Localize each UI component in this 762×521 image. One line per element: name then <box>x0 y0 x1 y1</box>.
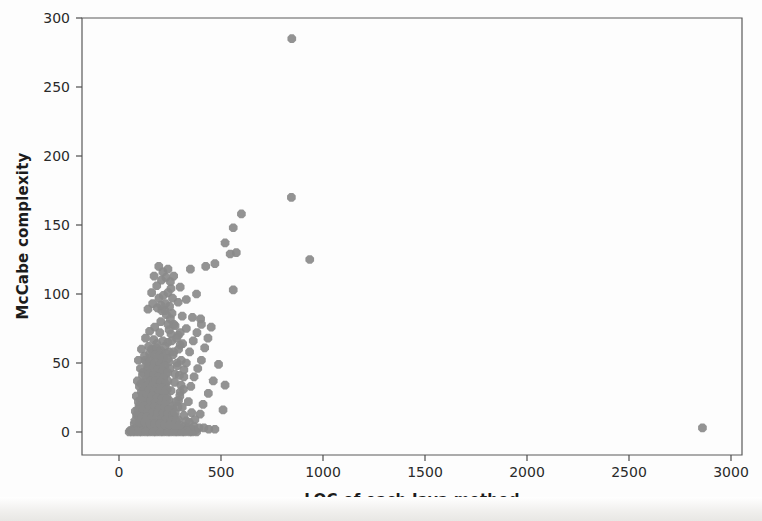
data-point <box>214 360 223 369</box>
y-tick-label: 300 <box>43 10 70 26</box>
data-point-layer <box>125 34 707 436</box>
x-axis-tick-marks <box>119 455 731 461</box>
data-point <box>184 397 193 406</box>
y-axis-title: McCabe complexity <box>14 152 32 319</box>
y-tick-label: 200 <box>43 148 70 164</box>
data-point <box>164 265 173 274</box>
data-point <box>204 389 213 398</box>
y-tick-label: 250 <box>43 79 70 95</box>
data-point <box>219 406 228 415</box>
y-tick-label: 150 <box>43 217 70 233</box>
data-point <box>165 302 174 311</box>
x-axis-tick-labels: 050010001500200025003000 <box>115 464 749 480</box>
data-point <box>155 328 164 337</box>
figure-container: 050010001500200025003000 050100150200250… <box>0 0 762 521</box>
data-point <box>182 359 191 368</box>
data-point <box>209 377 218 386</box>
data-point <box>211 425 220 434</box>
data-point <box>197 320 206 329</box>
data-point <box>176 328 185 337</box>
data-point <box>221 239 230 248</box>
data-point <box>226 250 235 259</box>
y-tick-label: 50 <box>52 355 70 371</box>
page-edge-shadow <box>0 497 762 521</box>
data-point <box>186 265 195 274</box>
x-tick-label: 500 <box>208 464 235 480</box>
data-point <box>168 294 177 303</box>
x-tick-label: 0 <box>115 464 124 480</box>
data-point <box>187 408 196 417</box>
data-point <box>185 348 194 357</box>
data-point <box>178 312 187 321</box>
data-point <box>171 408 180 417</box>
y-tick-label: 100 <box>43 286 70 302</box>
data-point <box>197 356 206 365</box>
data-point <box>192 290 201 299</box>
data-point <box>237 210 246 219</box>
data-point <box>211 259 220 268</box>
y-axis-tick-marks <box>76 18 82 432</box>
data-point <box>150 272 159 281</box>
x-tick-label: 1500 <box>407 464 443 480</box>
x-tick-label: 1000 <box>305 464 341 480</box>
data-point <box>177 381 186 390</box>
data-point <box>229 223 238 232</box>
data-point <box>154 262 163 271</box>
x-tick-label: 2500 <box>611 464 647 480</box>
data-point <box>200 343 209 352</box>
data-point <box>193 328 202 337</box>
data-point <box>176 283 185 292</box>
scatter-plot: 050010001500200025003000 050100150200250… <box>0 0 762 521</box>
data-point <box>169 272 178 281</box>
data-point <box>221 381 230 390</box>
data-point <box>229 286 238 295</box>
y-axis-tick-labels: 050100150200250300 <box>43 10 70 440</box>
data-point <box>287 193 296 202</box>
data-point <box>193 364 202 373</box>
x-tick-label: 2000 <box>509 464 545 480</box>
data-point <box>188 313 197 322</box>
data-point <box>207 323 216 332</box>
data-point <box>141 334 150 343</box>
data-point <box>175 421 184 430</box>
data-point <box>182 295 191 304</box>
data-point <box>186 382 195 391</box>
data-point <box>144 305 153 314</box>
data-point <box>190 372 199 381</box>
y-tick-label: 0 <box>61 424 70 440</box>
data-point <box>201 262 210 271</box>
data-point <box>305 255 314 264</box>
data-point <box>189 337 198 346</box>
x-tick-label: 3000 <box>713 464 749 480</box>
data-point <box>199 400 208 409</box>
data-point <box>204 334 213 343</box>
data-point <box>287 34 296 43</box>
data-point <box>180 372 189 381</box>
data-point <box>175 392 184 401</box>
data-point <box>698 424 707 433</box>
